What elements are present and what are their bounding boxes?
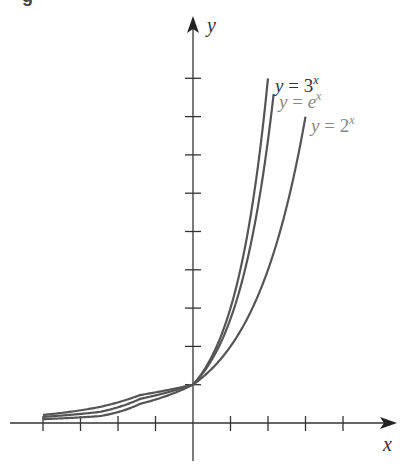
y-axis-label: y: [205, 14, 216, 37]
curve-label-ex: y = ex: [277, 89, 322, 112]
axes: x y: [10, 14, 397, 461]
x-axis-label: x: [382, 433, 392, 455]
curve-labels: y = 3x y = ex y = 2x: [273, 73, 355, 136]
exponent: x: [312, 73, 319, 87]
curve-label-2x: y = 2x: [309, 113, 355, 136]
curve-ex: [43, 94, 274, 417]
curve-3x: [43, 78, 268, 419]
exponential-functions-chart: x y y = 3x y = ex y = 2x: [0, 0, 409, 467]
curves: [43, 78, 306, 419]
